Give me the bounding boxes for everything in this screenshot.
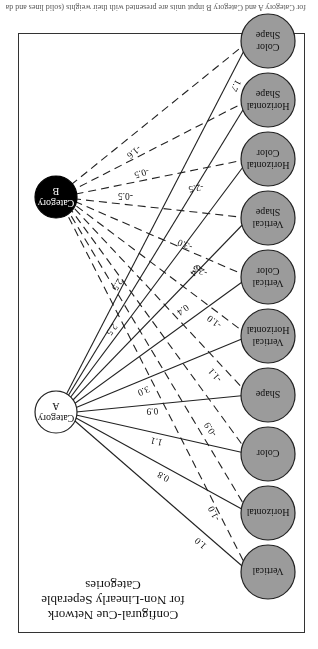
weight-color-a: 1.1 — [149, 435, 163, 447]
input-node-label: Shape — [255, 30, 280, 41]
input-node-label: Horizontal — [246, 507, 289, 518]
weight-vertical-a: 1.0 — [193, 536, 209, 552]
input-node-vertical: Vertical — [241, 545, 295, 599]
weight-labels-category-b: -1.0 -0.9 -1.1 -1.0 -2.5 -3.0 -2.5 -0.5 … — [118, 143, 224, 522]
edge-color-a — [76, 415, 249, 454]
input-node-label: Color — [256, 42, 279, 53]
edge-horizontal-color-a — [70, 159, 249, 398]
weight-shape-a: 0.9 — [146, 406, 159, 417]
input-node-label: Color — [256, 448, 279, 459]
output-nodes: Category A Category B — [35, 176, 77, 433]
edge-horizontal-shape-a — [68, 100, 249, 396]
edge-horizontal-color-b — [76, 159, 249, 194]
diagram-title: Configural-Cue Network for Non-Linearly … — [41, 578, 185, 623]
input-node-label: Color — [256, 148, 279, 159]
output-node-label: A — [52, 401, 60, 412]
weight-vertical-color-a: 0.4 — [175, 302, 191, 317]
edge-vertical-color-a — [74, 277, 249, 404]
edge-color-shape-b — [72, 41, 249, 184]
input-nodes: Vertical Horizontal Color Shape Vertical… — [241, 14, 295, 599]
input-node-label: Vertical — [252, 337, 283, 348]
connections-category-a — [66, 41, 249, 572]
edge-shape-a — [76, 395, 249, 412]
input-node-label: Vertical — [252, 219, 283, 230]
weight-horizontal-shape-a: 2.5 — [110, 277, 125, 293]
input-node-vertical-horizontal: Vertical Horizontal — [241, 309, 295, 363]
rotated-figure-page: Configural-Cue Network for Non-Linearly … — [0, 0, 318, 649]
input-node-label: Shape — [255, 207, 280, 218]
edge-color-shape-a — [66, 41, 249, 395]
output-node-category-b: Category B — [35, 176, 77, 218]
output-node-label: Category — [38, 198, 75, 209]
weight-color-shape-a: 1.7 — [229, 78, 243, 93]
input-node-label: Horizontal — [246, 101, 289, 112]
weight-horizontal-shape-b: -0.5 — [133, 166, 151, 180]
weight-color-b: -0.9 — [202, 420, 219, 438]
title-line-1: Configural-Cue Network — [47, 608, 178, 623]
output-node-category-a: Category A — [35, 391, 77, 433]
input-node-shape: Shape — [241, 368, 295, 422]
input-node-label: Color — [256, 266, 279, 277]
input-node-label: Shape — [255, 389, 280, 400]
weight-extra-b: -0.5 — [118, 191, 133, 201]
input-node-color-shape: Color Shape — [241, 14, 295, 68]
output-node-label: Category — [38, 413, 75, 424]
output-node-label: B — [52, 186, 59, 197]
input-node-color: Color — [241, 427, 295, 481]
edge-vertical-horizontal-b — [75, 205, 249, 336]
input-node-label: Vertical — [252, 278, 283, 289]
input-node-label: Horizontal — [246, 325, 289, 336]
input-node-horizontal: Horizontal — [241, 486, 295, 540]
weight-horizontal-a: 0.8 — [156, 469, 171, 484]
input-node-horizontal-color: Horizontal Color — [241, 132, 295, 186]
connections-category-b — [68, 41, 249, 572]
weight-shape-b: -1.1 — [206, 366, 224, 384]
input-node-horizontal-shape: Horizontal Shape — [241, 73, 295, 127]
input-node-label: Horizontal — [246, 160, 289, 171]
input-node-label: Shape — [255, 89, 280, 100]
network-diagram: Configural-Cue Network for Non-Linearly … — [0, 0, 318, 649]
title-line-2: for Non-Linearly Seperable — [41, 593, 185, 608]
weight-vertical-shape-b: -3.0 — [176, 237, 194, 252]
edge-vertical-color-b — [76, 202, 249, 277]
input-node-label: Vertical — [252, 566, 283, 577]
weight-vertical-horizontal-b: -1.0 — [205, 313, 223, 330]
weight-color-shape-b: -1.6 — [125, 143, 143, 160]
weight-horizontal-color-b: -2.5 — [188, 182, 205, 195]
edge-horizontal-shape-b — [75, 100, 249, 189]
edge-horizontal-a — [76, 418, 249, 513]
weight-vertical-b: -1.0 — [206, 504, 222, 522]
title-line-3: Categories — [85, 578, 141, 593]
figure-caption: for Category A and Category B input unit… — [6, 2, 306, 12]
input-node-vertical-shape: Vertical Shape — [241, 191, 295, 245]
weight-vertical-horizontal-a: 3.0 — [136, 384, 151, 398]
edge-horizontal-b — [70, 214, 249, 513]
input-node-vertical-color: Vertical Color — [241, 250, 295, 304]
